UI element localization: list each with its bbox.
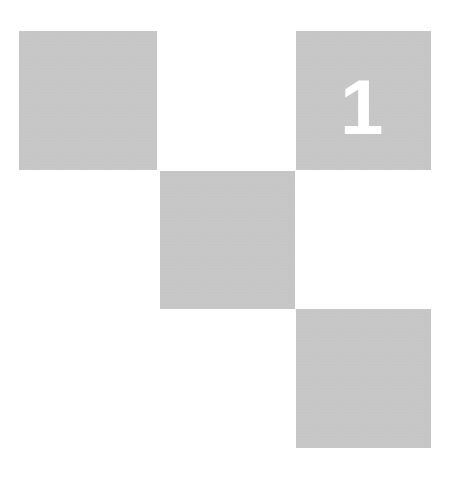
tile-top-left	[19, 31, 157, 170]
tile-number-label: 1	[340, 68, 383, 146]
tile-bottom-right	[296, 309, 431, 448]
tile-top-right: 1	[296, 31, 431, 170]
tile-middle	[160, 171, 295, 309]
